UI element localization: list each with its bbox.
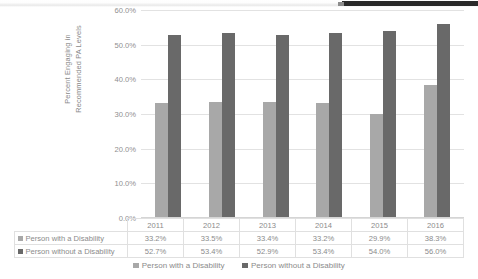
- data-table-cell: 38.3%: [408, 232, 464, 245]
- data-table-cell: 52.9%: [240, 245, 296, 258]
- data-table-column-header: 2011: [128, 219, 184, 232]
- data-table-cell: 33.5%: [184, 232, 240, 245]
- data-table-row: Person with a Disability33.2%33.5%33.4%3…: [15, 232, 464, 245]
- bar-series-container: [141, 10, 464, 218]
- data-table-column-header: 2012: [184, 219, 240, 232]
- bar: [263, 102, 276, 218]
- bar-chart: Percent Engaging in Recommended PA Level…: [14, 10, 464, 218]
- bar: [370, 114, 383, 218]
- series-name-label: Person without a Disability: [26, 247, 115, 256]
- bar-group: [410, 10, 464, 218]
- data-table-cell: 33.4%: [240, 232, 296, 245]
- legend-label: Person without a Disability: [251, 261, 345, 270]
- y-axis-title: Percent Engaging in Recommended PA Level…: [58, 6, 88, 132]
- y-axis-tick-label: 60.0%: [114, 6, 136, 15]
- chart-data-table: 201120122013201420152016Person with a Di…: [14, 218, 464, 258]
- y-axis-tick-labels: 60.0%50.0%40.0%30.0%20.0%10.0%0.0%: [100, 10, 140, 218]
- legend-item[interactable]: Person with a Disability: [133, 261, 224, 270]
- bar-group: [249, 10, 303, 218]
- data-table-corner-cell: [15, 219, 128, 232]
- bar: [383, 31, 396, 218]
- page-edge-dark-strip: [342, 1, 478, 6]
- y-axis-tick-label: 50.0%: [114, 40, 136, 49]
- series-name-label: Person with a Disability: [26, 234, 105, 243]
- bar: [222, 33, 235, 218]
- bar-group: [141, 10, 195, 218]
- legend-color-swatch-icon: [133, 263, 139, 269]
- data-table-column-header: 2013: [240, 219, 296, 232]
- data-table-row: Person without a Disability52.7%53.4%52.…: [15, 245, 464, 258]
- y-axis-tick-label: 30.0%: [114, 110, 136, 119]
- data-table-cell: 52.7%: [128, 245, 184, 258]
- data-table-cell: 54.0%: [352, 245, 408, 258]
- legend-label: Person with a Disability: [142, 261, 225, 270]
- data-table-column-header: 2015: [352, 219, 408, 232]
- bar: [209, 102, 222, 218]
- bar-group: [302, 10, 356, 218]
- data-table-cell: 33.2%: [128, 232, 184, 245]
- bar: [329, 33, 342, 218]
- bar-group: [195, 10, 249, 218]
- bar: [168, 35, 181, 218]
- y-axis-tick-label: 20.0%: [114, 144, 136, 153]
- bar: [316, 103, 329, 218]
- bar-group: [356, 10, 410, 218]
- data-table-column-header: 2014: [296, 219, 352, 232]
- data-table-column-header: 2016: [408, 219, 464, 232]
- y-axis-title-line-2: Recommended PA Levels: [73, 25, 84, 113]
- bar: [276, 35, 289, 218]
- y-axis-title-line-1: Percent Engaging in: [62, 34, 73, 103]
- data-table-cell: 33.2%: [296, 232, 352, 245]
- y-axis-tick-label: 40.0%: [114, 75, 136, 84]
- bar: [424, 85, 437, 218]
- data-table-cell: 56.0%: [408, 245, 464, 258]
- data-table-cell: 53.4%: [296, 245, 352, 258]
- page-edge-dark-strip-tail: [338, 2, 344, 6]
- data-table-header-row: 201120122013201420152016: [15, 219, 464, 232]
- chart-legend: Person with a DisabilityPerson without a…: [0, 261, 478, 270]
- data-table-cell: 29.9%: [352, 232, 408, 245]
- data-table-cell: 53.4%: [184, 245, 240, 258]
- series-color-swatch-icon: [18, 236, 23, 241]
- bar: [437, 24, 450, 218]
- legend-color-swatch-icon: [242, 263, 248, 269]
- y-axis-tick-label: 10.0%: [114, 179, 136, 188]
- plot-area: [141, 10, 464, 218]
- legend-item[interactable]: Person without a Disability: [242, 261, 344, 270]
- data-table-row-header: Person with a Disability: [15, 232, 128, 245]
- bar: [155, 103, 168, 218]
- data-table-body: 201120122013201420152016Person with a Di…: [15, 219, 464, 258]
- series-color-swatch-icon: [18, 249, 23, 254]
- data-table-row-header: Person without a Disability: [15, 245, 128, 258]
